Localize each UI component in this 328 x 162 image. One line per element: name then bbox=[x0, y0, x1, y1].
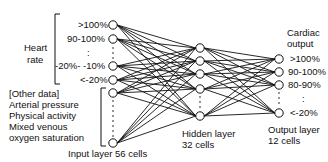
neuron-node bbox=[109, 76, 117, 84]
neuron-node bbox=[196, 70, 204, 78]
hidden-layer-caption-1: Hidden layer bbox=[182, 128, 235, 139]
neuron-node bbox=[275, 81, 283, 89]
other-data-2: Physical activity bbox=[9, 110, 76, 121]
other-data-3: Mixed venous bbox=[9, 121, 68, 132]
neuron-node bbox=[196, 57, 204, 65]
other-data-1: Arterial pressure bbox=[9, 99, 79, 110]
output-bin-1: 90-100% bbox=[288, 66, 326, 77]
hr-bin-4: <-20% bbox=[80, 74, 108, 85]
output-bin-2: 80-90% bbox=[288, 79, 321, 90]
output-title-2: output bbox=[287, 38, 313, 49]
hr-bin-1: 90-100% bbox=[67, 33, 105, 44]
neuron-node bbox=[196, 44, 204, 52]
neuron-node bbox=[109, 35, 117, 43]
neuron-node bbox=[109, 89, 117, 97]
hr-bin-0: >100% bbox=[78, 19, 108, 30]
neuron-node bbox=[275, 109, 283, 117]
output-title-1: Cardiac bbox=[287, 27, 320, 38]
neuron-node bbox=[109, 21, 117, 29]
neuron-node bbox=[196, 112, 204, 120]
output-layer-caption-2: 12 cells bbox=[268, 135, 300, 146]
output-layer-caption-1: Output layer bbox=[268, 124, 320, 135]
neuron-node bbox=[109, 62, 117, 70]
heart-rate-label-1: Heart bbox=[24, 42, 47, 53]
output-bin-3: <-20% bbox=[290, 107, 318, 118]
output-bin-ellipsis: : bbox=[302, 93, 305, 104]
other-data-4: oxygen saturation bbox=[9, 132, 84, 143]
hr-bin-ellipsis: : bbox=[87, 47, 90, 58]
neuron-node bbox=[275, 55, 283, 63]
neural-network-diagram: Heart rate >100% 90-100% : -20%- -10% <-… bbox=[0, 0, 328, 162]
neuron-node bbox=[109, 139, 117, 147]
other-data-0: [Other data] bbox=[9, 88, 59, 99]
neuron-node bbox=[196, 85, 204, 93]
input-layer-caption: Input layer 56 cells bbox=[68, 148, 147, 159]
heart-rate-label-2: rate bbox=[27, 54, 43, 65]
output-bin-0: >100% bbox=[290, 53, 320, 64]
hidden-layer-caption-2: 32 cells bbox=[182, 139, 214, 150]
neuron-node bbox=[275, 68, 283, 76]
hr-bin-3: -20%- -10% bbox=[55, 60, 105, 71]
